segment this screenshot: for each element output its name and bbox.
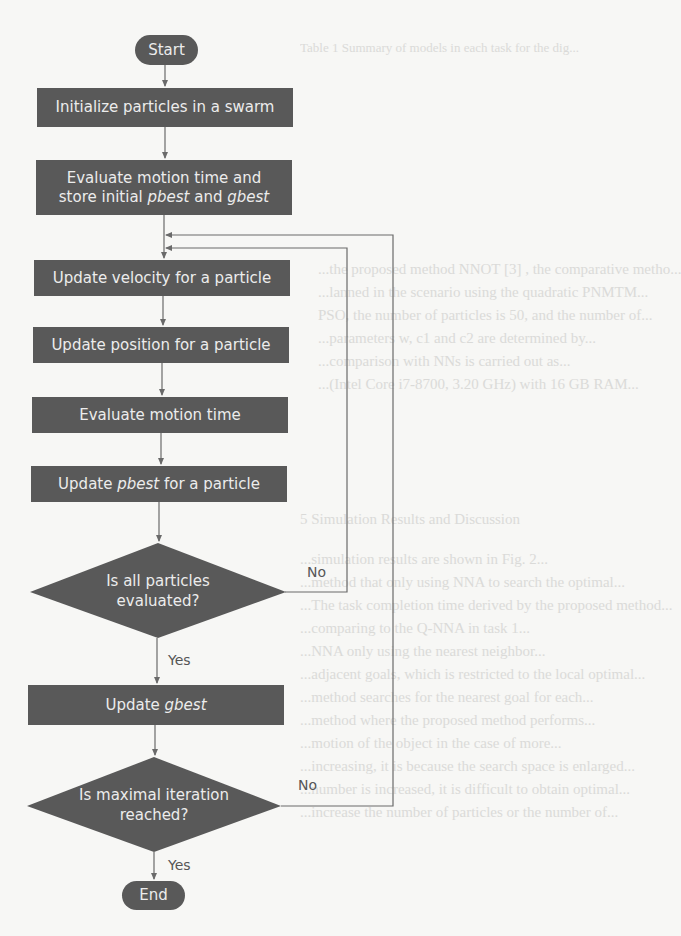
decision-label-line2: evaluated? (117, 591, 200, 611)
pbest-term: pbest (148, 188, 190, 206)
step-update-gbest: Update gbest (28, 685, 284, 725)
step-update-velocity: Update velocity for a particle (34, 260, 290, 296)
decision-label-line2: reached? (120, 805, 189, 825)
gbest-term: gbest (165, 696, 207, 714)
step-evaluate-motion-time: Evaluate motion time (32, 397, 288, 433)
step-label: Update pbest for a particle (58, 475, 260, 494)
step-update-position: Update position for a particle (33, 327, 289, 363)
step-initialize-particles: Initialize particles in a swarm (37, 88, 293, 127)
decision-label-line1: Is maximal iteration (79, 785, 229, 805)
step-label: Initialize particles in a swarm (56, 98, 275, 117)
step-evaluate-initial: Evaluate motion time and store initial p… (36, 160, 292, 215)
pbest-term: pbest (117, 475, 159, 493)
start-label: Start (148, 41, 185, 60)
text-fragment: and (189, 188, 227, 206)
step-label-line2: store initial pbest and gbest (59, 188, 269, 207)
start-terminal: Start (135, 35, 198, 65)
end-terminal: End (122, 881, 185, 910)
end-label: End (139, 886, 168, 905)
decision-label-line1: Is all particles (106, 571, 210, 591)
decision-max-iteration-reached: Is maximal iteration reached? (27, 757, 281, 852)
step-label: Update position for a particle (51, 336, 270, 355)
step-label: Update velocity for a particle (53, 269, 271, 288)
no-label-2: No (298, 777, 317, 793)
text-fragment: for a particle (159, 475, 260, 493)
no-label-1: No (307, 564, 326, 580)
gbest-term: gbest (227, 188, 269, 206)
decision-all-particles-evaluated: Is all particles evaluated? (30, 543, 286, 638)
yes-label-2: Yes (168, 857, 191, 873)
step-update-pbest: Update pbest for a particle (31, 466, 287, 502)
text-fragment: Update (58, 475, 117, 493)
text-fragment: Update (105, 696, 164, 714)
step-label: Update gbest (105, 696, 206, 715)
text-fragment: store initial (59, 188, 148, 206)
step-label-line1: Evaluate motion time and (67, 169, 261, 188)
yes-label-1: Yes (168, 652, 191, 668)
step-label: Evaluate motion time (79, 406, 240, 425)
